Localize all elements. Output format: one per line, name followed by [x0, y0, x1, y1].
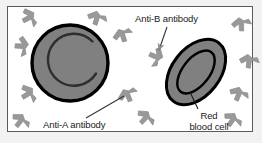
- antibody-5: [231, 13, 252, 34]
- tilted-red-blood-cell: [154, 28, 237, 116]
- antibody-10: [230, 86, 249, 103]
- antibody-11: [137, 111, 154, 126]
- label-red-blood-cell-line1: Red: [181, 110, 237, 121]
- antibody-9: [118, 84, 138, 105]
- antibody-7: [19, 85, 39, 103]
- antibody-1: [19, 9, 39, 28]
- label-red-blood-cell: Red blood cell: [181, 110, 237, 132]
- antibody-3: [12, 36, 32, 57]
- anti-b-leader: [159, 27, 167, 50]
- antibody-13: [239, 51, 260, 71]
- antibody-4: [113, 24, 133, 45]
- anti-a-leader: [86, 96, 124, 118]
- label-red-blood-cell-line2: blood cell: [181, 121, 237, 132]
- label-anti-b-antibody: Anti-B antibody: [135, 13, 198, 24]
- antibody-6: [147, 48, 164, 67]
- antibody-8: [13, 115, 29, 128]
- figure-container: Anti-B antibody Anti-A antibody Red bloo…: [0, 0, 262, 143]
- antibody-2: [88, 9, 108, 27]
- round-red-blood-cell: [32, 25, 108, 101]
- label-anti-a-antibody: Anti-A antibody: [43, 119, 105, 130]
